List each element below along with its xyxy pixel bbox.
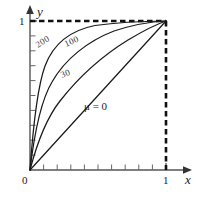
x-minor-ticks bbox=[44, 165, 153, 171]
x-axis-label: x bbox=[184, 172, 191, 187]
exponential-saturation-chart: 200 100 30 μ = 0 x y 0 1 1 bbox=[0, 0, 201, 198]
y-axis-label: y bbox=[35, 4, 43, 19]
curve-label-mu-100: 100 bbox=[63, 34, 81, 49]
plot-canvas: 200 100 30 μ = 0 x y 0 1 1 bbox=[0, 0, 201, 198]
y-tick-one-label: 1 bbox=[19, 15, 25, 27]
x-tick-one-label: 1 bbox=[163, 174, 169, 186]
origin-tick-label: 0 bbox=[22, 174, 28, 186]
curve-label-mu-200: 200 bbox=[34, 33, 52, 49]
curve-label-mu-30: 30 bbox=[59, 67, 72, 80]
curve-label-mu-0: μ = 0 bbox=[84, 100, 108, 112]
y-axis-arrow-icon bbox=[26, 5, 34, 14]
curve-mu-0 bbox=[30, 21, 166, 170]
